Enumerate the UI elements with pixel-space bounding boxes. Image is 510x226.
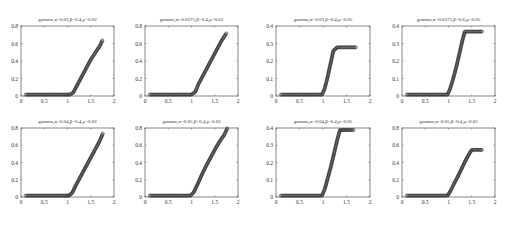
y-tick-label: 0 bbox=[396, 194, 399, 200]
x-tick-label: 0 bbox=[401, 98, 404, 104]
x-tick-label: 2 bbox=[113, 98, 116, 104]
subplot-title: gamma,α=0.04,β=0.4,μ=0.02 bbox=[38, 119, 97, 125]
x-tick-label: 1 bbox=[322, 98, 325, 104]
x-tick-label: 1 bbox=[190, 199, 193, 205]
y-tick-label: 0.2 bbox=[11, 177, 18, 183]
x-tick-label: 0 bbox=[144, 199, 147, 205]
scatter-markers bbox=[279, 46, 357, 96]
x-tick-label: 1.5 bbox=[87, 199, 94, 205]
y-tick-label: 0.8 bbox=[11, 23, 18, 29]
x-tick-label: 1 bbox=[66, 199, 69, 205]
x-tick-label: 1.5 bbox=[211, 98, 218, 104]
x-tick-label: 0 bbox=[20, 199, 23, 205]
axes-frame bbox=[402, 26, 495, 96]
y-tick-label: 0.8 bbox=[135, 23, 142, 29]
x-tick-label: 1.5 bbox=[468, 98, 475, 104]
axes-frame bbox=[276, 128, 370, 197]
x-tick-label: 2 bbox=[369, 98, 372, 104]
x-tick-label: 0.5 bbox=[296, 98, 303, 104]
subplot-7: gamma,α=0.04,β=0.4,μ=0.0500.511.5200.10.… bbox=[266, 119, 372, 205]
y-tick-label: 0.2 bbox=[135, 177, 142, 183]
y-tick-label: 0.4 bbox=[392, 160, 399, 166]
x-tick-label: 1.5 bbox=[343, 98, 350, 104]
subplot-5: gamma,α=0.04,β=0.4,μ=0.0200.511.5200.20.… bbox=[11, 119, 116, 205]
subplot-6: gamma,α=0.05,β=0.4,μ=0.0200.511.5200.20.… bbox=[135, 119, 240, 205]
y-tick-label: 0.3 bbox=[266, 142, 273, 148]
subplot-4: gamma,α=0.0375,β=0.6,μ=0.0500.511.5200.1… bbox=[392, 17, 497, 104]
subplot-title: gamma,α=0.0375,β=0.4,μ=0.02 bbox=[160, 17, 224, 23]
x-tick-label: 2 bbox=[237, 98, 240, 104]
x-tick-label: 1 bbox=[322, 199, 325, 205]
y-tick-label: 0.6 bbox=[11, 142, 18, 148]
x-tick-label: 2 bbox=[494, 98, 497, 104]
subplot-title: gamma,α=0.03,β=0.4,μ=0.02 bbox=[38, 17, 97, 23]
axes-frame bbox=[21, 128, 114, 197]
subplot-title: gamma,α=0.05,β=0.4,μ=0.02 bbox=[162, 119, 221, 125]
x-tick-label: 1 bbox=[190, 98, 193, 104]
x-tick-label: 1.5 bbox=[87, 98, 94, 104]
y-tick-label: 0.6 bbox=[392, 142, 399, 148]
x-tick-label: 0.5 bbox=[165, 98, 172, 104]
axes-frame bbox=[145, 128, 238, 197]
y-tick-label: 0.4 bbox=[11, 160, 18, 166]
y-tick-label: 0 bbox=[139, 93, 142, 99]
x-tick-label: 1.5 bbox=[211, 199, 218, 205]
x-tick-label: 0 bbox=[144, 98, 147, 104]
scatter-markers bbox=[148, 32, 228, 96]
y-tick-label: 0.6 bbox=[135, 142, 142, 148]
x-tick-label: 0.5 bbox=[296, 199, 303, 205]
x-tick-label: 1.5 bbox=[468, 199, 475, 205]
y-tick-label: 0.3 bbox=[392, 41, 399, 47]
subplot-8: gamma,α=0.05,β=0.4,μ=0.0500.511.5200.20.… bbox=[392, 119, 497, 205]
figure: gamma,α=0.03,β=0.4,μ=0.0200.511.5200.20.… bbox=[0, 0, 510, 226]
x-tick-label: 2 bbox=[237, 199, 240, 205]
subplot-title: gamma,α=0.05,β=0.4,μ=0.05 bbox=[419, 119, 478, 125]
x-tick-label: 0.5 bbox=[41, 199, 48, 205]
y-tick-label: 0.2 bbox=[392, 177, 399, 183]
x-tick-label: 1.5 bbox=[343, 199, 350, 205]
y-tick-label: 0.4 bbox=[266, 125, 273, 131]
y-tick-label: 0.6 bbox=[135, 41, 142, 47]
y-tick-label: 0.1 bbox=[392, 76, 399, 82]
y-tick-label: 0.2 bbox=[266, 58, 273, 64]
x-tick-label: 0.5 bbox=[165, 199, 172, 205]
x-tick-label: 1 bbox=[447, 98, 450, 104]
y-tick-label: 0.8 bbox=[11, 125, 18, 131]
y-tick-label: 0.2 bbox=[266, 160, 273, 166]
subplot-3: gamma,α=0.03,β=0.4,μ=0.0500.511.5200.10.… bbox=[266, 17, 372, 104]
y-tick-label: 0.4 bbox=[392, 23, 399, 29]
subplot-1: gamma,α=0.03,β=0.4,μ=0.0200.511.5200.20.… bbox=[11, 17, 116, 104]
subplot-title: gamma,α=0.0375,β=0.6,μ=0.05 bbox=[417, 17, 481, 23]
y-tick-label: 0.3 bbox=[266, 41, 273, 47]
subplot-2: gamma,α=0.0375,β=0.4,μ=0.0200.511.5200.2… bbox=[135, 17, 240, 104]
y-tick-label: 0 bbox=[15, 93, 18, 99]
y-tick-label: 0 bbox=[15, 194, 18, 200]
y-tick-label: 0 bbox=[139, 194, 142, 200]
x-tick-label: 0.5 bbox=[422, 98, 429, 104]
y-tick-label: 0.4 bbox=[266, 23, 273, 29]
y-tick-label: 0.8 bbox=[135, 125, 142, 131]
y-tick-label: 0.1 bbox=[266, 76, 273, 82]
x-tick-label: 1 bbox=[447, 199, 450, 205]
x-tick-label: 1 bbox=[66, 98, 69, 104]
y-tick-label: 0.2 bbox=[135, 76, 142, 82]
x-tick-label: 2 bbox=[494, 199, 497, 205]
scatter-markers bbox=[405, 148, 483, 197]
axes-frame bbox=[21, 26, 114, 96]
scatter-markers bbox=[24, 132, 104, 197]
scatter-markers bbox=[405, 30, 483, 96]
subplot-title: gamma,α=0.03,β=0.4,μ=0.05 bbox=[294, 17, 353, 23]
axes-frame bbox=[276, 26, 370, 96]
x-tick-label: 0 bbox=[275, 98, 278, 104]
scatter-markers bbox=[24, 39, 104, 96]
y-tick-label: 0 bbox=[270, 194, 273, 200]
y-tick-label: 0 bbox=[396, 93, 399, 99]
y-tick-label: 0 bbox=[270, 93, 273, 99]
x-tick-label: 0 bbox=[20, 98, 23, 104]
subplot-title: gamma,α=0.04,β=0.4,μ=0.05 bbox=[294, 119, 353, 125]
y-tick-label: 0.8 bbox=[392, 125, 399, 131]
x-tick-label: 0 bbox=[401, 199, 404, 205]
x-tick-label: 0 bbox=[275, 199, 278, 205]
scatter-markers bbox=[148, 127, 229, 197]
y-tick-label: 0.2 bbox=[11, 76, 18, 82]
